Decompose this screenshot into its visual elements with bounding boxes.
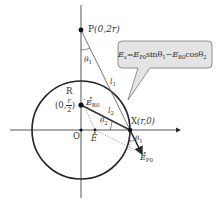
label-l1: l1 [110,78,116,88]
label-l2: l2 [108,107,114,117]
dashed-line-R [86,110,95,130]
angle-arc-theta2 [110,121,112,130]
dot-E-R0: • [89,95,93,101]
label-R: R [66,87,72,96]
label-theta1-top: θ1 [84,56,92,66]
point-X [128,128,132,132]
label-theta2: θ2 [100,118,108,127]
label-R-coords: (0,r2) [55,97,75,114]
callout-equation: Ex=EP0sinθ1−ER0cosθ2 [118,49,206,60]
label-theta1-x: θ1 [135,136,143,145]
label-X: X(r,0) [131,117,155,126]
point-R [78,102,83,107]
label-P: P(0,2r) [88,25,120,34]
point-P [79,28,84,33]
label-O: O [73,132,80,141]
dot-E: • [93,130,97,136]
dot-E-P0: • [143,150,147,156]
angle-arc-theta1-top [81,48,90,50]
